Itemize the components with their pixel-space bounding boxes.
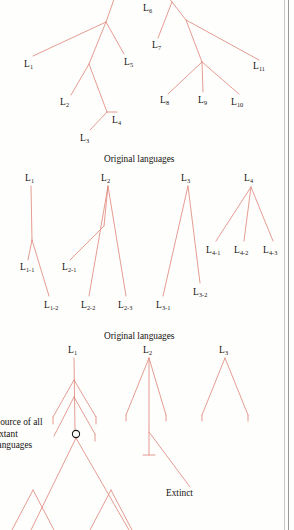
bot-L3-branch-left: [202, 358, 225, 415]
mid-L1-to-L1-1: [28, 240, 32, 260]
bot-L1-trunk: [74, 358, 75, 430]
extinct-label: Extinct: [166, 489, 193, 498]
source-note-line-2: extant: [0, 429, 43, 441]
source-node-circle: [72, 430, 79, 437]
parent-label-L2-bottom: L2: [143, 346, 152, 356]
child-label-L1-1: L1-1: [20, 263, 34, 273]
leaf-label-L6: L6: [143, 4, 152, 14]
mid-L4-to-L4-3: [251, 187, 273, 241]
child-label-L4-3: L4-3: [263, 246, 277, 256]
mid-L4-to-L4-2: [244, 187, 251, 241]
leaf-label-L11: L11: [253, 62, 265, 72]
leaf-label-L10: L10: [231, 98, 243, 108]
mid-L3-to-L3-2: [188, 186, 200, 283]
page-edge-line-outer: [288, 0, 289, 530]
top-edge-to-L3: [90, 112, 107, 130]
leaf-label-L7: L7: [152, 41, 161, 51]
top-right-upper: [172, 2, 186, 20]
mid-L2-to-L2-1: [70, 226, 104, 260]
bot-L3-branch-right: [225, 358, 248, 415]
bot-L1-left-b: [53, 380, 74, 417]
bot-L1-left-a: [54, 397, 74, 436]
child-label-L2-3: L2-3: [118, 301, 132, 311]
top-edge-to-L5: [106, 22, 124, 54]
bot-L2-to-extinct: [149, 432, 190, 487]
child-label-L3-1: L3-1: [156, 301, 170, 311]
mid-L2-to-L2-3: [108, 186, 126, 296]
bot-root-fan-right: [76, 438, 129, 530]
top-right-lower-trunk: [186, 20, 202, 62]
parent-label-L3-middle: L3: [181, 174, 190, 184]
parent-label-L3-bottom: L3: [219, 346, 228, 356]
bot-L2-branch-right: [149, 358, 166, 415]
mid-L3-to-L3-1: [163, 186, 188, 296]
bot-root-fan-right-split-a: [90, 490, 111, 530]
child-label-L4-2: L4-2: [234, 246, 248, 256]
source-note-line-3: languages: [0, 440, 43, 452]
leaf-label-L5: L5: [124, 58, 133, 68]
mid-L2-to-L2-2: [89, 186, 108, 296]
bot-L1-right-a: [74, 397, 95, 434]
top-edge-to-L11: [186, 20, 259, 60]
language-family-tree-figure: L1 L2 L3 L4 L5 L6 L7 L8 L9 L10 L11 Origi…: [0, 0, 294, 530]
top-left-trunk: [106, 0, 118, 22]
leaf-label-L4: L4: [112, 116, 121, 126]
leaf-label-L2: L2: [60, 98, 69, 108]
leaf-label-L1: L1: [24, 60, 33, 70]
leaf-label-L8: L8: [160, 96, 169, 106]
bot-root-fan-right-split-b: [111, 490, 132, 530]
caption-original-languages-bottom: Original languages: [104, 332, 174, 341]
child-label-L3-2: L3-2: [193, 288, 207, 298]
bot-L1-right-b: [74, 380, 96, 417]
parent-label-L1-middle: L1: [25, 174, 34, 184]
mid-L4-to-L4-1: [216, 187, 251, 241]
top-edge-to-L7: [158, 2, 172, 38]
child-label-L4-1: L4-1: [206, 246, 220, 256]
child-label-L1-2: L1-2: [44, 301, 58, 311]
page-edge-line-inner: [284, 0, 285, 530]
mid-L1-to-L1-2: [32, 240, 49, 296]
parent-label-L1-bottom: L1: [68, 346, 77, 356]
top-edge-to-L8: [168, 62, 202, 94]
top-edge-to-L1: [33, 22, 106, 56]
panel-bottom-branches: [12, 358, 248, 530]
source-of-extant-languages-note: Source of all extant languages: [0, 417, 43, 452]
panel-middle-branches: [28, 186, 273, 296]
leaf-label-L3: L3: [80, 134, 89, 144]
child-label-L2-1: L2-1: [62, 263, 76, 273]
bot-L2-branch-left: [126, 358, 149, 415]
panel-top-branches: [33, 0, 259, 130]
top-edge-to-L9: [202, 62, 203, 92]
source-note-line-1: Source of all: [0, 417, 43, 429]
parent-label-L4-middle: L4: [244, 174, 253, 184]
parent-label-L2-middle: L2: [101, 174, 110, 184]
leaf-label-L9: L9: [198, 96, 207, 106]
mid-L1-trunk: [31, 186, 32, 240]
bot-root-fan-left: [31, 438, 76, 530]
top-edge-to-L10: [202, 62, 239, 94]
top-right-trunk: [160, 0, 172, 2]
child-label-L2-2: L2-2: [81, 301, 95, 311]
top-edge-to-L2: [71, 64, 89, 95]
tree-branch-lines: [0, 0, 294, 530]
caption-original-languages-middle: Original languages: [104, 155, 174, 164]
bot-root-fan-left-split-b: [33, 490, 54, 530]
top-left-lower-trunk: [89, 64, 107, 112]
bot-root-fan-left-split-a: [12, 490, 33, 530]
